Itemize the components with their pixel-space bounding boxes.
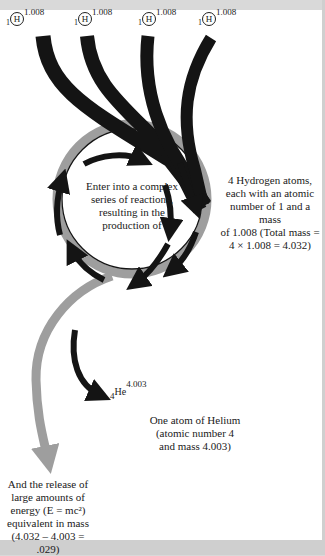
hydrogen-circle-icon: H [78,12,92,26]
energy-description-label: And the release of large amounts of ener… [0,478,96,556]
hydrogen-atom-1: 1H1.008 [6,12,44,26]
helium-atom: 4He4.003 [110,386,146,397]
hydrogen-atom-2: 1H1.008 [74,12,112,26]
reaction-center-label: Enter into a complex series of reactions… [76,180,188,232]
hydrogen-circle-icon: H [10,12,24,26]
hydrogen-circle-icon: H [142,12,156,26]
hydrogen-atom-4: 1H1.008 [198,12,236,26]
hydrogen-atom-3: 1H1.008 [138,12,176,26]
helium-output-arrow [74,330,100,395]
hydrogen-circle-icon: H [202,12,216,26]
hydrogen-description-label: 4 Hydrogen atoms, each with an atomic nu… [218,174,322,252]
helium-description-label: One atom of Helium (atomic number 4 and … [125,414,265,453]
